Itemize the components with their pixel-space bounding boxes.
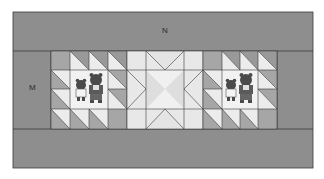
side-border-label: M <box>29 83 36 92</box>
left-bear-block <box>51 51 127 129</box>
top-border-label: N <box>162 26 168 35</box>
center-star-block <box>127 51 203 129</box>
right-bear-block <box>203 51 277 129</box>
